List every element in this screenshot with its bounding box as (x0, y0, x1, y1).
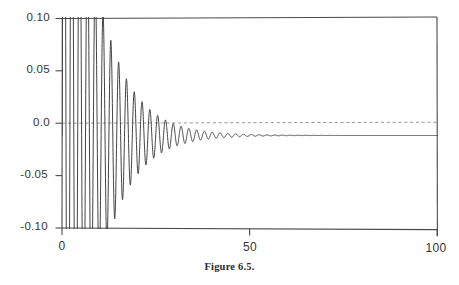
figure-container: 0.10 0.05 0.0 -0.05 -0.10 0 50 100 Figur… (0, 0, 459, 285)
y-axis-ticks (56, 19, 63, 229)
plot-frame (62, 17, 437, 236)
y-tick-label-2: 0.0 (4, 116, 50, 128)
zero-gridline (62, 122, 437, 123)
figure-caption: Figure 6.5. (0, 261, 459, 272)
y-tick-label-4: -0.10 (2, 220, 48, 232)
y-tick-label-1: 0.05 (4, 63, 50, 75)
x-tick-label-0: 0 (42, 239, 82, 253)
y-tick-label-3: -0.05 (2, 168, 48, 180)
x-tick-label-1: 50 (230, 240, 270, 254)
x-tick-label-2: 100 (416, 241, 456, 255)
y-tick-label-0: 0.10 (4, 11, 50, 23)
data-series-response (62, 0, 437, 254)
